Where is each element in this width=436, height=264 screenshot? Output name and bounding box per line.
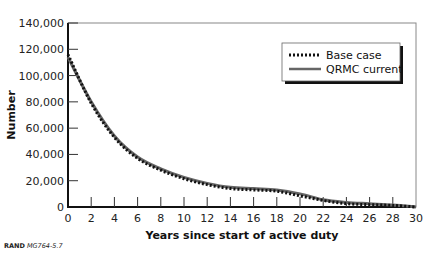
x-ticks: 024681012141618202224262830: [65, 197, 424, 225]
line-chart: 020,00040,00060,00080,000100,000120,0001…: [0, 0, 436, 264]
y-tick-label: 0: [57, 201, 64, 214]
x-tick-label: 26: [363, 212, 377, 225]
x-tick-label: 14: [223, 212, 237, 225]
x-tick-label: 16: [247, 212, 261, 225]
x-tick-label: 10: [177, 212, 191, 225]
x-tick-label: 8: [157, 212, 164, 225]
x-tick-label: 22: [316, 212, 330, 225]
y-ticks: 020,00040,00060,00080,000100,000120,0001…: [19, 17, 79, 214]
source-id: MG764-5.7: [27, 242, 63, 250]
source-note: RAND MG764-5.7: [4, 242, 63, 250]
x-tick-label: 12: [200, 212, 214, 225]
legend: Base case QRMC current: [282, 43, 403, 84]
y-tick-label: 80,000: [26, 96, 65, 109]
legend-label-base-case: Base case: [326, 49, 382, 62]
x-tick-label: 0: [65, 212, 72, 225]
y-tick-label: 40,000: [26, 148, 65, 161]
x-tick-label: 4: [111, 212, 118, 225]
legend-label-qrmc-current: QRMC current: [326, 63, 403, 76]
y-tick-label: 20,000: [26, 175, 65, 188]
y-tick-label: 100,000: [19, 70, 65, 83]
source-org: RAND: [4, 242, 25, 250]
x-tick-label: 18: [270, 212, 284, 225]
x-tick-label: 28: [386, 212, 400, 225]
x-tick-label: 6: [134, 212, 141, 225]
y-axis-title: Number: [5, 90, 18, 140]
x-tick-label: 2: [88, 212, 95, 225]
x-tick-label: 24: [339, 212, 353, 225]
x-tick-label: 30: [409, 212, 423, 225]
y-tick-label: 120,000: [19, 43, 65, 56]
x-axis-title: Years since start of active duty: [144, 229, 338, 242]
x-tick-label: 20: [293, 212, 307, 225]
y-tick-label: 60,000: [26, 122, 65, 135]
y-tick-label: 140,000: [19, 17, 65, 30]
